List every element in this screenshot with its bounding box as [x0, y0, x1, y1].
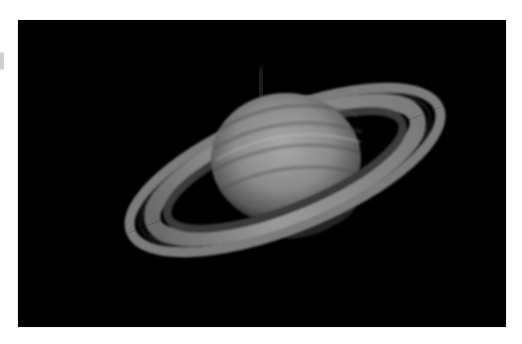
saturn-photo	[18, 20, 506, 327]
saturn-illustration	[18, 20, 506, 327]
partial-edge-element	[0, 52, 4, 70]
